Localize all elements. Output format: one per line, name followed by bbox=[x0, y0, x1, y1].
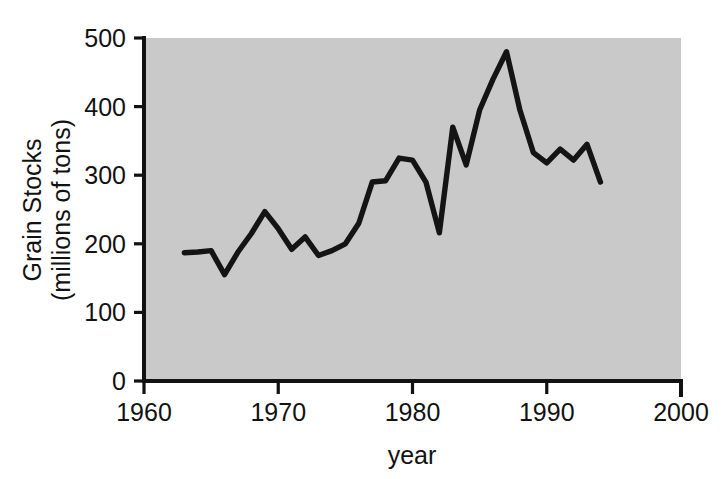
chart-figure: 0100200300400500 19601970198019902000 ye… bbox=[0, 0, 723, 479]
y-axis-title-line2: (millions of tons) bbox=[47, 119, 75, 301]
chart-canvas: 0100200300400500 19601970198019902000 ye… bbox=[0, 0, 723, 479]
y-axis-tick-label: 400 bbox=[84, 93, 126, 121]
y-axis-tick-label: 0 bbox=[112, 367, 126, 395]
x-axis-tick-label: 1970 bbox=[250, 398, 306, 426]
y-axis-tick-label: 200 bbox=[84, 230, 126, 258]
y-axis-tick-label: 300 bbox=[84, 161, 126, 189]
x-axis-title: year bbox=[388, 441, 437, 469]
x-axis-tick-label: 1960 bbox=[116, 398, 172, 426]
y-axis-tick-labels: 0100200300400500 bbox=[84, 24, 126, 395]
y-axis-tick-label: 500 bbox=[84, 24, 126, 52]
x-axis-tick-labels: 19601970198019902000 bbox=[116, 398, 709, 426]
y-axis-tick-label: 100 bbox=[84, 298, 126, 326]
y-axis-title-line1: Grain Stocks bbox=[18, 138, 46, 281]
x-axis-tick-label: 2000 bbox=[653, 398, 709, 426]
plot-area-background bbox=[144, 38, 681, 381]
x-axis-tick-label: 1980 bbox=[385, 398, 441, 426]
x-axis-tick-label: 1990 bbox=[519, 398, 575, 426]
